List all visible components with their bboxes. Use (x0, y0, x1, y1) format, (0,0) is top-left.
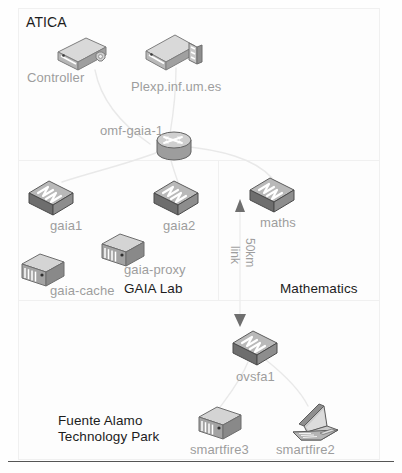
network-topology-diagram: ATICA GAIA Lab Mathematics Fuente Alamo … (0, 0, 402, 473)
switch-icon (247, 175, 297, 217)
node-label-gaia1: gaia1 (50, 218, 82, 233)
rack-server-icon (142, 32, 204, 78)
zone-label-gaia-lab: GAIA Lab (124, 281, 183, 297)
node-label-controller: Controller (27, 70, 84, 85)
node-gaia1[interactable] (26, 178, 76, 220)
node-maths[interactable] (247, 175, 297, 217)
switch-icon (151, 178, 201, 220)
switch-icon (26, 178, 76, 220)
node-label-gaia-cache: gaia-cache (50, 283, 115, 298)
node-label-gaia-proxy: gaia-proxy (124, 262, 186, 277)
node-label-smartfire2: smartfire2 (276, 442, 335, 457)
bottom-divider (8, 461, 394, 462)
node-gaia2[interactable] (151, 178, 201, 220)
node-plexp[interactable] (142, 32, 204, 78)
node-smartfire2[interactable] (290, 402, 342, 446)
switch-icon (230, 328, 280, 370)
tower-server-icon (196, 405, 244, 445)
node-ovsfa1[interactable] (230, 328, 280, 370)
zone-label-fuente-alamo: Fuente Alamo Technology Park (58, 413, 159, 445)
node-label-omf-gaia-1: omf-gaia-1 (100, 123, 163, 138)
link-label-type: link (228, 246, 241, 264)
node-label-maths: maths (260, 215, 296, 230)
node-smartfire3[interactable] (196, 405, 244, 445)
zone-label-atica: ATICA (26, 14, 67, 30)
link-label-distance: 50km (243, 238, 256, 267)
node-label-plexp: Plexp.inf.um.es (131, 79, 221, 94)
zone-label-mathematics: Mathematics (280, 281, 358, 297)
node-label-smartfire3: smartfire3 (190, 442, 249, 457)
node-label-ovsfa1: ovsfa1 (236, 369, 275, 384)
node-label-gaia2: gaia2 (163, 218, 195, 233)
laptop-icon (290, 402, 342, 446)
